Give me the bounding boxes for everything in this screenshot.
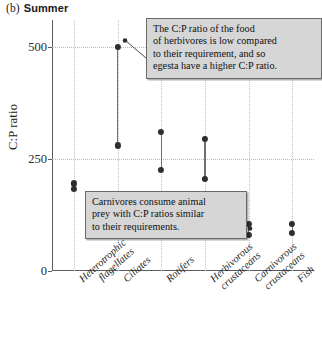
callout-carnivore-line3: to their requirements. [92, 221, 240, 233]
data-point [289, 230, 295, 236]
data-point [158, 129, 164, 135]
panel-label: (b) [6, 2, 20, 14]
y-tick-label-250: 250 [28, 151, 47, 166]
data-point [114, 44, 120, 50]
callout-carnivore-line2: prey with C:P ratios similar [92, 208, 240, 220]
range-connector [204, 139, 205, 179]
y-tick-label-500: 500 [28, 39, 47, 54]
data-point [289, 221, 295, 227]
callout-herbivore-line1: The C:P ratio of the food [153, 23, 315, 35]
gridline-x-0 [74, 20, 75, 271]
callout-herbivore-line3: to their requirement, and so [153, 48, 315, 60]
callout-carnivore: Carnivores consume animal prey with C:P … [85, 191, 247, 239]
panel-title: (b)Summer [6, 2, 68, 14]
range-connector [117, 47, 118, 146]
y-axis-title: C:P ratio [6, 104, 21, 150]
callout-carnivore-line1: Carnivores consume animal [92, 196, 240, 208]
x-axis-label-5: Fish [295, 264, 317, 285]
y-tick-mark-0 [48, 271, 52, 272]
data-point [202, 176, 208, 182]
gridline-y-250 [52, 159, 314, 160]
panel-title-text: Summer [24, 2, 69, 14]
callout-herbivore-line4: egesta have a higher C:P ratio. [153, 60, 315, 72]
callout-herbivore-line2: of herbivores is low compared [153, 35, 315, 47]
data-point [71, 186, 77, 192]
data-point [114, 142, 120, 148]
x-axis-label-4: Carnivorouscrustaceans [252, 241, 307, 293]
x-axis-label-0: Heterotrophicflagellates [77, 237, 136, 293]
range-connector [161, 132, 162, 170]
callout-herbivore: The C:P ratio of the food of herbivores … [146, 18, 322, 79]
data-point [202, 136, 208, 142]
y-tick-label-0: 0 [41, 264, 47, 279]
y-axis-line [52, 20, 53, 271]
y-tick-mark-250 [48, 159, 52, 160]
data-point [158, 167, 164, 173]
x-axis-label-3: Herbivorouscrustaceans [208, 241, 263, 293]
x-axis-label-line: Fish [295, 264, 317, 285]
y-tick-mark-500 [48, 47, 52, 48]
